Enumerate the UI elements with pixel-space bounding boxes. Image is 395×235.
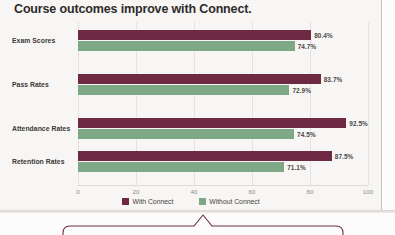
bar-with-connect <box>78 74 321 84</box>
legend-swatch-icon <box>122 198 129 205</box>
category-label: Attendance Rates <box>12 125 70 132</box>
slide-right-edge <box>381 0 382 211</box>
legend-label: With Connect <box>132 198 173 205</box>
bar-without-connect <box>78 41 295 51</box>
bar-value-label: 92.5% <box>349 120 368 127</box>
legend-swatch-icon <box>199 198 206 205</box>
bar-value-label: 72.9% <box>292 87 311 94</box>
bar-value-label: 74.5% <box>297 131 316 138</box>
bar-without-connect <box>78 85 289 95</box>
bar-without-connect <box>78 129 294 139</box>
x-tick-label: 60 <box>249 188 256 195</box>
bar-value-label: 83.7% <box>324 76 343 83</box>
x-tick-label: 20 <box>133 188 140 195</box>
legend-label: Without Connect <box>209 198 259 205</box>
chart-screenshot: Course outcomes improve with Connect. Ex… <box>0 0 395 235</box>
bar-value-label: 74.7% <box>298 43 317 50</box>
callout-shape <box>62 214 344 235</box>
callout-annotation <box>62 214 344 235</box>
bar-value-label: 71.1% <box>287 164 306 171</box>
bar-with-connect <box>78 151 332 161</box>
bar-value-label: 80.4% <box>314 32 333 39</box>
legend-item: Without Connect <box>199 198 259 205</box>
chart-legend: With ConnectWithout Connect <box>0 198 382 205</box>
category-label: Retention Rates <box>12 158 65 165</box>
page-bottom-shadow <box>0 210 395 213</box>
bar-with-connect <box>78 118 346 128</box>
bar-with-connect <box>78 30 311 40</box>
x-tick-label: 80 <box>307 188 314 195</box>
chart-title: Course outcomes improve with Connect. <box>14 2 252 16</box>
legend-item: With Connect <box>122 198 173 205</box>
bar-value-label: 87.5% <box>335 153 354 160</box>
gridline <box>368 22 369 185</box>
x-axis-line <box>78 185 368 186</box>
x-tick-label: 0 <box>76 188 79 195</box>
x-tick-label: 40 <box>191 188 198 195</box>
bar-without-connect <box>78 162 284 172</box>
category-label: Pass Rates <box>12 81 49 88</box>
x-tick-label: 100 <box>363 188 373 195</box>
category-label: Exam Scores <box>12 37 55 44</box>
